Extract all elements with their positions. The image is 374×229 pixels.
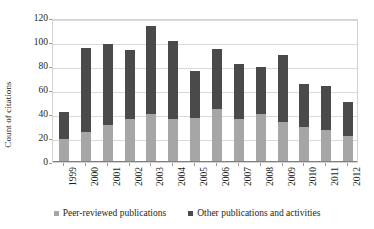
bar-segment-peer-reviewed <box>299 127 309 162</box>
bar-segment-peer-reviewed <box>256 114 266 162</box>
x-axis-tick-mark <box>260 163 261 166</box>
bar-segment-peer-reviewed <box>103 125 113 162</box>
x-axis-tick-mark <box>325 163 326 166</box>
y-axis-tick-label: 20 <box>14 134 48 144</box>
gridline <box>53 140 357 141</box>
x-axis-tick-label: 2004 <box>177 167 188 207</box>
bar-segment-other-publications <box>168 41 178 119</box>
x-axis-tick-label: 2007 <box>243 167 254 207</box>
y-axis-tick-mark <box>49 163 52 164</box>
x-axis-tick-label: 2005 <box>199 167 210 207</box>
bar-stack <box>256 67 266 162</box>
bar-segment-other-publications <box>212 49 222 109</box>
x-axis-tick-mark <box>85 163 86 166</box>
x-axis-tick-mark <box>347 163 348 166</box>
y-axis-tick-label: 60 <box>14 86 48 96</box>
bar-segment-other-publications <box>234 64 244 119</box>
bar-stack <box>81 48 91 162</box>
x-axis-tick-mark <box>216 163 217 166</box>
x-axis-tick-mark <box>107 163 108 166</box>
x-axis-tick-mark <box>282 163 283 166</box>
bar-stack <box>190 71 200 162</box>
bar-segment-peer-reviewed <box>81 132 91 162</box>
y-axis-tick-label: 0 <box>14 158 48 168</box>
bar-segment-other-publications <box>125 50 135 118</box>
x-axis-line <box>53 161 357 162</box>
x-axis-tick-mark <box>63 163 64 166</box>
x-axis-tick-label: 1999 <box>68 167 79 207</box>
bar-stack <box>168 41 178 162</box>
x-axis-tick-label: 2006 <box>221 167 232 207</box>
bar-stack <box>125 50 135 162</box>
bar-segment-peer-reviewed <box>190 118 200 162</box>
bar-segment-peer-reviewed <box>212 109 222 162</box>
x-axis-tick-mark <box>238 163 239 166</box>
bar-segment-peer-reviewed <box>168 119 178 162</box>
bar-segment-other-publications <box>343 102 353 136</box>
legend-item-label: Other publications and activities <box>197 208 320 218</box>
x-axis-tick-label: 2011 <box>330 167 341 207</box>
bar-segment-peer-reviewed <box>59 139 69 162</box>
x-axis-tick-label: 2002 <box>134 167 145 207</box>
bar-segment-other-publications <box>256 67 266 114</box>
bar-stack <box>343 102 353 162</box>
x-axis-tick-label: 2003 <box>155 167 166 207</box>
gridline <box>53 20 357 21</box>
x-axis-tick-mark <box>172 163 173 166</box>
x-axis-tick-label: 2012 <box>352 167 363 207</box>
bar-stack <box>234 64 244 162</box>
bar-stack <box>103 44 113 162</box>
bar-segment-other-publications <box>59 112 69 140</box>
bar-segment-other-publications <box>103 44 113 124</box>
bar-segment-other-publications <box>190 71 200 118</box>
y-axis-tick-label: 40 <box>14 110 48 120</box>
bar-stack <box>321 86 331 162</box>
bar-segment-peer-reviewed <box>278 122 288 162</box>
x-axis-tick-label: 2009 <box>287 167 298 207</box>
chart-figure: Count of citations 020406080100120 19992… <box>0 0 374 229</box>
x-axis-tick-mark <box>303 163 304 166</box>
bar-segment-peer-reviewed <box>234 119 244 162</box>
x-axis-tick-label: 2001 <box>112 167 123 207</box>
gridline <box>53 44 357 45</box>
bar-segment-peer-reviewed <box>343 136 353 162</box>
bar-stack <box>278 55 288 162</box>
bar-stack <box>299 84 309 162</box>
bar-segment-other-publications <box>299 84 309 127</box>
y-axis-tick-label: 120 <box>14 14 48 24</box>
x-axis-tick-label: 2010 <box>308 167 319 207</box>
square-marker-icon <box>54 211 59 216</box>
bar-stack <box>212 49 222 162</box>
gridline <box>53 116 357 117</box>
legend-item-label: Peer-reviewed publications <box>63 208 166 218</box>
chart-legend: Peer-reviewed publicationsOther publicat… <box>0 208 374 218</box>
bar-segment-other-publications <box>278 55 288 122</box>
gridline <box>53 68 357 69</box>
bar-segment-peer-reviewed <box>146 114 156 162</box>
y-axis-tick-label: 80 <box>14 62 48 72</box>
bar-segment-other-publications <box>81 48 91 132</box>
x-axis-tick-mark <box>194 163 195 166</box>
square-marker-icon <box>188 211 193 216</box>
gridline <box>53 92 357 93</box>
plot-area <box>52 19 358 163</box>
bar-segment-other-publications <box>321 86 331 129</box>
legend-item[interactable]: Other publications and activities <box>188 208 320 218</box>
bar-segment-other-publications <box>146 26 156 114</box>
legend-item[interactable]: Peer-reviewed publications <box>54 208 166 218</box>
bar-segment-peer-reviewed <box>321 130 331 162</box>
bar-stack <box>146 26 156 162</box>
bar-segment-peer-reviewed <box>125 119 135 162</box>
x-axis-tick-mark <box>150 163 151 166</box>
y-axis-tick-label: 100 <box>14 38 48 48</box>
bar-stack <box>59 112 69 162</box>
x-axis-tick-label: 2008 <box>265 167 276 207</box>
x-axis-tick-label: 2000 <box>90 167 101 207</box>
x-axis-tick-mark <box>129 163 130 166</box>
